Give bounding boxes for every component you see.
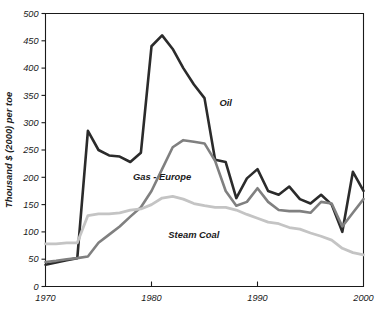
y-axis-tick-label: 450 xyxy=(23,36,39,46)
x-axis-tick-label: 1970 xyxy=(35,293,56,303)
series-line-gas-europe xyxy=(46,140,364,262)
x-axis-tick-label: 2000 xyxy=(352,293,374,303)
series-label-oil: Oil xyxy=(219,97,232,108)
y-axis-tick-label: 150 xyxy=(23,200,39,210)
x-axis-tick-label: 1980 xyxy=(141,293,162,303)
series-line-steam-coal xyxy=(46,196,364,254)
y-axis-tick-label: 500 xyxy=(23,9,39,19)
series-label-gas-europe: Gas - Europe xyxy=(133,171,191,182)
y-axis-tick-label: 200 xyxy=(22,173,39,183)
y-axis-tick-label: 350 xyxy=(23,91,39,101)
y-axis-tick-label: 100 xyxy=(23,227,39,237)
series-label-steam-coal: Steam Coal xyxy=(168,229,219,240)
y-axis-tick-label: 250 xyxy=(22,145,39,155)
chart-container: 0501001502002503003504004505001970198019… xyxy=(0,0,380,313)
y-axis-tick-label: 400 xyxy=(23,63,39,73)
x-axis-tick-label: 1990 xyxy=(247,293,268,303)
y-axis-title: Thousand $ (2000) per toe xyxy=(3,92,14,208)
plot-frame xyxy=(46,14,364,287)
line-chart: 0501001502002503003504004505001970198019… xyxy=(0,0,380,313)
y-axis-tick-label: 50 xyxy=(28,254,39,264)
y-axis-tick-label: 300 xyxy=(23,118,39,128)
y-axis-tick-label: 0 xyxy=(33,282,39,292)
